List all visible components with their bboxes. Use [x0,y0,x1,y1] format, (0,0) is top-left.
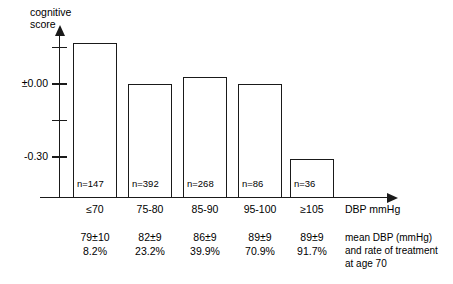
x-axis-title: DBP mmHg [345,203,400,215]
bar-count-label: n=36 [294,178,315,189]
chart-caption-line: and rate of treatment [345,244,438,257]
x-axis-arrow-icon [387,193,398,203]
y-axis-tick-label: ±0.00 [22,77,48,89]
y-axis-arrow-icon [55,25,65,36]
chart-figure: cognitive score ±0.00-0.30 n=147n=392n=2… [0,0,453,284]
y-axis-tick-labels: ±0.00-0.30 [0,0,48,284]
mean-dbp-value: 89±9 [277,231,347,245]
chart-caption-line: at age 70 [345,257,438,270]
bar-count-label: n=147 [77,178,104,189]
chart-caption-line: mean DBP (mmHg) [345,231,438,244]
x-axis-category-label: ≥105 [277,203,347,215]
y-axis-tick [52,120,67,121]
y-axis-line [59,34,60,198]
stats-column: 89±991.7% [277,231,347,259]
bar-count-label: n=268 [187,178,214,189]
y-axis-tick [52,156,67,157]
bar-count-label: n=392 [132,178,159,189]
y-axis-tick [52,83,67,84]
chart-caption: mean DBP (mmHg)and rate of treatmentat a… [345,231,438,271]
y-axis-tick [52,47,67,48]
bar[interactable] [73,43,117,199]
y-axis-tick-label: -0.30 [24,150,48,162]
bar-count-label: n=86 [242,178,263,189]
treatment-rate-value: 91.7% [277,245,347,259]
